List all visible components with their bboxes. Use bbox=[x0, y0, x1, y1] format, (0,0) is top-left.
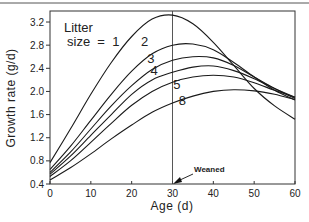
x-tick-label: 0 bbox=[47, 188, 53, 199]
y-axis: 0.40.81.21.62.02.42.83.2 bbox=[30, 17, 50, 190]
curve-label-2: 2 bbox=[141, 34, 148, 49]
x-tick-label: 40 bbox=[208, 188, 220, 199]
y-tick-label: 2.0 bbox=[30, 86, 44, 97]
growth-rate-chart: 0.40.81.21.62.02.42.83.2 0102030405060 2… bbox=[0, 0, 309, 222]
y-tick-label: 2.8 bbox=[30, 40, 44, 51]
x-tick-label: 50 bbox=[249, 188, 261, 199]
weaned-arrow-icon bbox=[173, 177, 182, 184]
weaned-annotation: Weaned bbox=[173, 165, 225, 184]
x-tick-label: 20 bbox=[126, 188, 138, 199]
weaned-arrow-shaft bbox=[180, 174, 193, 180]
x-axis-title: Age (d) bbox=[151, 199, 194, 213]
curve-label-4: 4 bbox=[150, 63, 157, 78]
curve-label-5: 5 bbox=[173, 77, 180, 92]
legend-title-line1: Litter bbox=[64, 20, 94, 35]
x-tick-label: 30 bbox=[167, 188, 179, 199]
y-tick-label: 2.4 bbox=[30, 63, 44, 74]
y-tick-label: 3.2 bbox=[30, 17, 44, 28]
legend-title-line2: size = 1 bbox=[67, 34, 119, 49]
y-tick-label: 1.6 bbox=[30, 109, 44, 120]
y-tick-label: 1.2 bbox=[30, 132, 44, 143]
x-tick-label: 60 bbox=[289, 188, 301, 199]
curve-label-8: 8 bbox=[179, 93, 186, 108]
curve-labels: 23458 bbox=[141, 34, 186, 108]
y-axis-title: Growth rate (g/d) bbox=[4, 48, 18, 147]
y-tick-label: 0.8 bbox=[30, 155, 44, 166]
y-tick-label: 0.4 bbox=[30, 179, 44, 190]
x-tick-label: 10 bbox=[85, 188, 97, 199]
weaned-label: Weaned bbox=[194, 165, 225, 174]
